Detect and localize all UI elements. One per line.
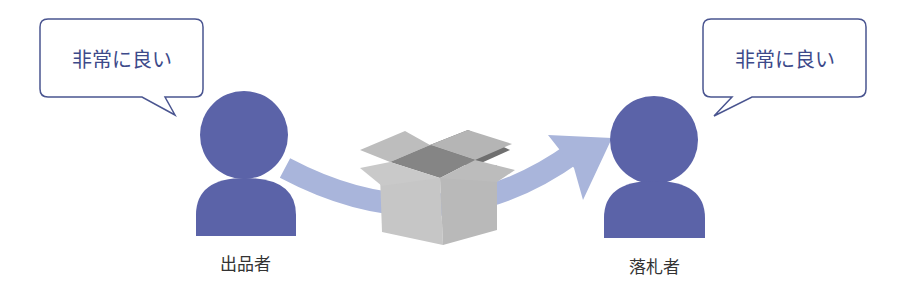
buyer-person-icon [604,96,705,238]
buyer-label: 落札者 [604,253,704,278]
open-box-icon [360,130,515,245]
buyer-speech-text: 非常に良い [703,44,866,73]
seller-label: 出品者 [195,250,295,275]
seller-speech-text: 非常に良い [40,44,203,73]
seller-person-icon [196,91,296,236]
